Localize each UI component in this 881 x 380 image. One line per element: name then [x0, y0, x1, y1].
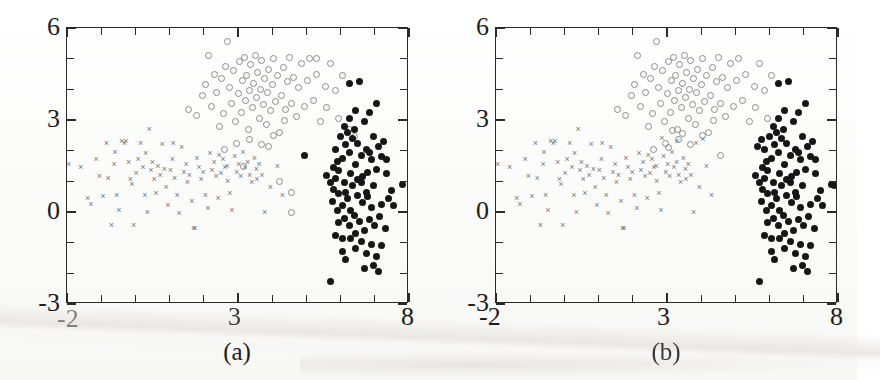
- scatter-point-class-1-cross: [87, 201, 94, 208]
- x-tick-a: [203, 295, 204, 302]
- scatter-point-class-3-filled-dot: [819, 202, 826, 209]
- y-tick-right-a: [400, 150, 407, 151]
- x-tick-top-b: [769, 28, 770, 35]
- scatter-point-class-1-cross: [141, 192, 148, 199]
- scatter-point-class-3-filled-dot: [342, 141, 349, 148]
- scatter-point-class-3-filled-dot: [766, 133, 773, 140]
- scatter-point-class-2-open-circle: [254, 69, 261, 76]
- scatter-point-class-2-open-circle: [327, 60, 334, 67]
- scatter-point-class-1-cross: [253, 176, 260, 183]
- scatter-point-class-2-open-circle: [689, 101, 696, 108]
- scatter-point-class-2-open-circle: [657, 100, 664, 107]
- x-tick-a: [169, 295, 170, 302]
- scatter-point-class-2-open-circle: [764, 115, 771, 122]
- scatter-point-class-2-open-circle: [205, 52, 212, 59]
- scatter-point-class-1-cross: [96, 173, 103, 180]
- scatter-point-class-1-cross: [183, 161, 190, 168]
- scatter-point-class-1-cross: [67, 161, 72, 168]
- y-tick-b: [496, 273, 503, 274]
- x-tick-a: [272, 295, 273, 302]
- scatter-point-class-2-open-circle: [304, 77, 311, 84]
- scatter-point-class-1-cross: [566, 140, 573, 147]
- scatter-point-class-3-filled-dot: [356, 218, 363, 225]
- scatter-point-class-2-open-circle: [246, 136, 253, 143]
- scatter-point-class-2-open-circle: [240, 163, 247, 170]
- scatter-point-class-1-cross: [228, 207, 235, 214]
- scatter-point-class-2-open-circle: [246, 87, 253, 94]
- x-tick-a: [135, 295, 136, 302]
- scatter-point-class-3-filled-dot: [775, 222, 782, 229]
- scatter-point-class-1-cross: [77, 164, 84, 171]
- scatter-point-class-3-filled-dot: [334, 207, 341, 214]
- scatter-point-class-1-cross: [633, 205, 640, 212]
- scatter-point-class-1-cross: [137, 140, 144, 147]
- scatter-point-class-3-filled-dot: [805, 213, 812, 220]
- y-tick-right-b: [829, 273, 836, 274]
- scatter-point-class-2-open-circle: [752, 104, 759, 111]
- scatter-point-class-2-open-circle: [622, 112, 629, 119]
- scatter-point-class-3-filled-dot: [802, 253, 809, 260]
- scatter-point-class-2-open-circle: [707, 92, 714, 99]
- scatter-point-class-1-cross: [178, 144, 185, 151]
- scatter-point-class-2-open-circle: [717, 100, 724, 107]
- scatter-point-class-3-filled-dot: [790, 118, 797, 125]
- scatter-point-class-1-cross: [111, 149, 118, 156]
- scatter-point-class-1-cross: [537, 222, 544, 229]
- scatter-point-class-3-filled-dot: [802, 166, 809, 173]
- scatter-point-class-3-filled-dot: [354, 192, 361, 199]
- y-tick-a: [67, 150, 74, 151]
- scatter-point-class-2-open-circle: [690, 75, 697, 82]
- scatter-point-class-2-open-circle: [661, 118, 668, 125]
- scatter-point-class-3-filled-dot: [758, 136, 765, 143]
- scatter-point-class-2-open-circle: [659, 67, 666, 74]
- scatter-point-class-3-filled-dot: [785, 78, 792, 85]
- scatter-point-class-1-cross: [186, 172, 193, 179]
- x-tick-top-a: [135, 28, 136, 35]
- y-tick-b: [496, 181, 503, 182]
- scatter-point-class-2-open-circle: [650, 146, 657, 153]
- x-tick-top-b: [530, 28, 531, 35]
- scatter-point-class-3-filled-dot: [361, 265, 368, 272]
- scatter-point-class-1-cross: [142, 150, 149, 157]
- scatter-point-class-2-open-circle: [211, 71, 218, 78]
- scatter-point-class-2-open-circle: [675, 87, 682, 94]
- scatter-point-class-2-open-circle: [270, 55, 277, 62]
- scatter-point-class-2-open-circle: [339, 72, 346, 79]
- scatter-point-class-2-open-circle: [233, 140, 240, 147]
- scatter-point-class-3-filled-dot: [341, 123, 348, 130]
- scatter-point-class-3-filled-dot: [373, 166, 380, 173]
- scatter-point-class-1-cross: [146, 126, 153, 133]
- scatter-point-class-2-open-circle: [290, 74, 297, 81]
- scatter-point-class-2-open-circle: [614, 106, 621, 113]
- scatter-point-class-1-cross: [125, 159, 132, 166]
- scatter-point-class-2-open-circle: [230, 67, 237, 74]
- scatter-point-class-2-open-circle: [261, 75, 268, 82]
- x-tick-b: [666, 293, 667, 302]
- scatter-point-class-3-filled-dot: [792, 250, 799, 257]
- scatter-point-class-3-filled-dot: [761, 232, 768, 239]
- scatter-point-class-3-filled-dot: [817, 187, 824, 194]
- scatter-point-class-2-open-circle: [735, 55, 742, 62]
- scatter-point-class-3-filled-dot: [376, 213, 383, 220]
- scatter-point-class-3-filled-dot: [814, 195, 821, 202]
- scatter-point-class-1-cross: [554, 159, 561, 166]
- scatter-point-class-1-cross: [607, 144, 614, 151]
- scatter-point-class-2-open-circle: [313, 55, 320, 62]
- scatter-point-class-2-open-circle: [323, 104, 330, 111]
- scatter-point-class-2-open-circle: [267, 107, 274, 114]
- scatter-point-class-2-open-circle: [264, 89, 271, 96]
- scatter-point-class-2-open-circle: [683, 69, 690, 76]
- scatter-point-class-2-open-circle: [276, 178, 283, 185]
- scatter-point-class-1-cross: [557, 181, 564, 188]
- scatter-point-class-1-cross: [239, 149, 246, 156]
- scatter-point-class-3-filled-dot: [773, 195, 780, 202]
- scatter-point-class-1-cross: [599, 140, 606, 147]
- scatter-point-class-3-filled-dot: [361, 227, 368, 234]
- scatter-point-class-2-open-circle: [634, 52, 641, 59]
- scatter-point-class-2-open-circle: [232, 118, 239, 125]
- scatter-point-class-2-open-circle: [693, 89, 700, 96]
- scatter-point-class-1-cross: [122, 138, 129, 145]
- scatter-point-class-1-cross: [159, 141, 166, 148]
- scatter-point-class-3-filled-dot: [768, 248, 775, 255]
- scatter-point-class-3-filled-dot: [359, 199, 366, 206]
